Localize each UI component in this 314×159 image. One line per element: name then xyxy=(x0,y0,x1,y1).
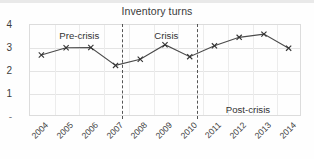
x-tick-label-2004: 2004 xyxy=(26,120,50,144)
gridline-y-1 xyxy=(30,94,300,95)
y-tick-label-1: 1 xyxy=(0,88,12,99)
x-tick-label-2007: 2007 xyxy=(101,120,125,144)
x-tick-label-2008: 2008 xyxy=(125,120,149,144)
annotation-post-crisis: Post-crisis xyxy=(226,104,270,115)
y-tick-label--: - xyxy=(0,111,12,122)
x-tick-label-2010: 2010 xyxy=(175,120,199,144)
x-tick-label-2009: 2009 xyxy=(150,120,174,144)
crisis-post-crisis-divider xyxy=(197,24,198,119)
y-tick-label-2: 2 xyxy=(0,65,12,76)
gridline-x-8 xyxy=(228,25,229,115)
gridline-x-6 xyxy=(178,25,179,115)
top-divider-rule xyxy=(0,0,314,3)
annotation-crisis: Crisis xyxy=(154,30,178,41)
x-tick-label-2011: 2011 xyxy=(199,120,223,144)
x-tick-label-2014: 2014 xyxy=(274,120,298,144)
gridline-x-4 xyxy=(129,25,130,115)
gridline-x-9 xyxy=(253,25,254,115)
x-tick-label-2006: 2006 xyxy=(76,120,100,144)
x-tick-label-2005: 2005 xyxy=(51,120,75,144)
annotation-pre-crisis: Pre-crisis xyxy=(59,30,99,41)
x-tick-label-2012: 2012 xyxy=(224,120,248,144)
x-tick-label-2013: 2013 xyxy=(249,120,273,144)
gridline-x-1 xyxy=(55,25,56,115)
y-tick-label-3: 3 xyxy=(0,42,12,53)
pre-crisis-crisis-divider xyxy=(122,24,123,119)
chart-title: Inventory turns xyxy=(0,5,314,17)
gridline-y-2 xyxy=(30,71,300,72)
gridline-x-3 xyxy=(104,25,105,115)
inventory-turns-chart: Inventory turns 4321- 200420052006200720… xyxy=(0,0,314,159)
y-tick-label-4: 4 xyxy=(0,19,12,30)
gridline-x-7 xyxy=(203,25,204,115)
gridline-y-3 xyxy=(30,48,300,49)
gridline-x-10 xyxy=(277,25,278,115)
